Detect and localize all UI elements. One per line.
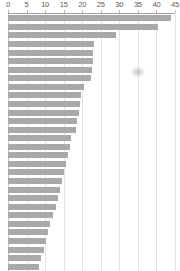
bar: [8, 101, 80, 107]
bar-series: [0, 14, 180, 271]
plot-area: [0, 14, 180, 271]
x-tick-mark: [82, 10, 83, 13]
x-tick-label: 20: [78, 0, 86, 9]
bar: [8, 195, 58, 201]
bar: [8, 238, 46, 244]
x-tick-mark: [138, 10, 139, 13]
bar: [8, 187, 60, 193]
bar: [8, 229, 48, 235]
bar: [8, 152, 68, 158]
bar: [8, 24, 158, 30]
x-tick-mark: [175, 10, 176, 13]
bar: [8, 110, 79, 116]
bar: [8, 58, 93, 64]
x-axis-top: 051015202530354045: [0, 0, 180, 14]
x-tick-mark: [119, 10, 120, 13]
x-tick-label: 35: [134, 0, 142, 9]
x-tick-label: 25: [97, 0, 105, 9]
x-tick-mark: [156, 10, 157, 13]
x-tick-mark: [64, 10, 65, 13]
x-tick-mark: [8, 10, 9, 13]
bar: [8, 221, 50, 227]
bar: [8, 84, 84, 90]
bar: [8, 178, 62, 184]
bar: [8, 50, 93, 56]
bar: [8, 15, 171, 21]
bar: [8, 135, 71, 141]
x-tick-mark: [45, 10, 46, 13]
bar: [8, 161, 66, 167]
x-tick-label: 15: [60, 0, 68, 9]
x-tick-label: 30: [115, 0, 123, 9]
x-tick-label: 40: [152, 0, 160, 9]
bar: [8, 255, 41, 261]
bar: [8, 264, 39, 270]
bar: [8, 32, 116, 38]
x-tick-label: 0: [6, 0, 10, 9]
bar: [8, 92, 81, 98]
bar: [8, 41, 94, 47]
bar: [8, 212, 53, 218]
bar: [8, 67, 92, 73]
x-tick-mark: [27, 10, 28, 13]
bar: [8, 75, 91, 81]
x-tick-label: 10: [41, 0, 49, 9]
x-tick-label: 5: [25, 0, 29, 9]
bar: [8, 247, 44, 253]
x-tick-mark: [101, 10, 102, 13]
bar: [8, 204, 56, 210]
bar: [8, 144, 70, 150]
bar: [8, 118, 77, 124]
x-tick-label: 45: [171, 0, 179, 9]
bar: [8, 169, 64, 175]
bar-chart: 051015202530354045: [0, 0, 180, 271]
bar: [8, 127, 76, 133]
